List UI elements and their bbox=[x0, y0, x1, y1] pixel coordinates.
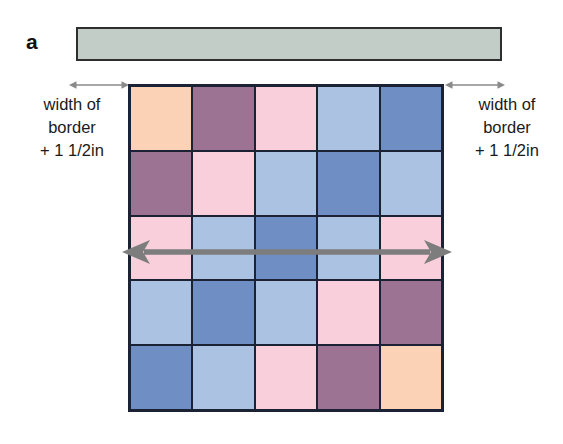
measure-arrow-left-icon bbox=[69, 78, 129, 92]
measure-arrow-left bbox=[69, 78, 129, 92]
quilt-cell bbox=[130, 151, 192, 216]
quilt-cell bbox=[317, 151, 379, 216]
caption-right-line2: border bbox=[451, 116, 563, 139]
quilt-cell bbox=[317, 86, 379, 151]
quilt-cell bbox=[380, 345, 442, 410]
quilt-cell bbox=[380, 151, 442, 216]
quilt-cell bbox=[192, 345, 254, 410]
quilt-cell bbox=[380, 86, 442, 151]
quilt-cell bbox=[380, 216, 442, 281]
caption-left-line1: width of bbox=[12, 93, 132, 116]
quilt-cell bbox=[130, 86, 192, 151]
quilt-cell bbox=[192, 151, 254, 216]
quilt-grid bbox=[128, 84, 444, 412]
quilt-cell bbox=[255, 151, 317, 216]
caption-left-line2: border bbox=[12, 116, 132, 139]
quilt-cell bbox=[130, 216, 192, 281]
measure-arrow-right bbox=[445, 78, 505, 92]
quilt-border-figure: a width of border + 1 1/2in width of bor… bbox=[0, 0, 563, 444]
quilt-cell bbox=[255, 86, 317, 151]
quilt-cell bbox=[380, 280, 442, 345]
quilt-cell bbox=[130, 280, 192, 345]
measure-arrow-right-icon bbox=[445, 78, 505, 92]
quilt-cell bbox=[255, 216, 317, 281]
quilt-cell bbox=[317, 345, 379, 410]
caption-right-line3: + 1 1/2in bbox=[451, 139, 563, 162]
quilt-cell bbox=[130, 345, 192, 410]
caption-right-line1: width of bbox=[451, 93, 563, 116]
quilt-cell bbox=[317, 280, 379, 345]
caption-left: width of border + 1 1/2in bbox=[12, 93, 132, 161]
caption-left-line3: + 1 1/2in bbox=[12, 139, 132, 162]
caption-right: width of border + 1 1/2in bbox=[451, 93, 563, 161]
border-fabric-strip bbox=[76, 27, 502, 61]
quilt-cell bbox=[317, 216, 379, 281]
quilt-cell bbox=[192, 216, 254, 281]
quilt-cell bbox=[255, 280, 317, 345]
quilt-cell bbox=[192, 86, 254, 151]
quilt-cell bbox=[255, 345, 317, 410]
quilt-cell bbox=[192, 280, 254, 345]
panel-letter: a bbox=[26, 31, 37, 52]
